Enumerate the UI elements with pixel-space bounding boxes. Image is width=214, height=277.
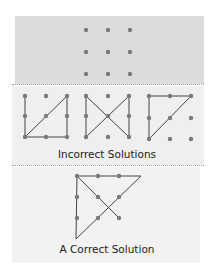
nine-dot-diagram bbox=[0, 0, 214, 277]
incorrect-solutions-caption: Incorrect Solutions bbox=[0, 148, 214, 160]
correct-solution bbox=[76, 176, 141, 239]
correct-solution-caption: A Correct Solution bbox=[0, 243, 214, 255]
nine-dot-grid bbox=[84, 28, 132, 76]
